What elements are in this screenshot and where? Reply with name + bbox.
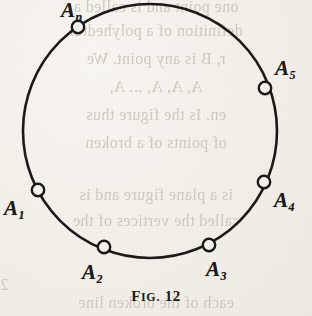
point-letter: A [274,188,288,212]
point-subscript: 1 [19,208,25,222]
point-subscript: n [76,10,83,24]
figure-drawing [0,0,312,316]
point-letter: A [275,56,289,80]
point-subscript: 5 [290,68,296,82]
point-letter: A [206,257,220,281]
point-label-A2: A2 [82,262,103,285]
point-label-A5: A5 [275,58,296,81]
point-subscript: 3 [221,269,227,283]
circle-diagram-svg [0,0,312,316]
point-markers [32,21,271,253]
circle-path [23,4,277,258]
caption-prefix-letter: F [131,288,141,304]
scanned-page: one point and is called a definition of … [0,0,312,316]
point-label-A1: A1 [4,198,25,221]
caption-smallcaps: IG. [141,290,160,304]
point-marker-A4 [258,176,270,188]
point-marker-A3 [203,239,215,251]
point-subscript: 4 [289,200,295,214]
point-letter: A [4,196,18,220]
point-letter: A [61,0,75,22]
point-letter: A [82,260,96,284]
point-marker-A1 [32,184,44,196]
point-label-A4: A4 [274,190,295,213]
point-label-An: An [61,0,82,23]
point-marker-A5 [259,82,271,94]
caption-number: 12 [165,288,181,304]
figure-caption: FIG. 12 [0,288,312,305]
circle-outline [23,4,277,258]
point-label-A3: A3 [206,259,227,282]
point-marker-A2 [98,241,110,253]
point-subscript: 2 [97,272,103,286]
